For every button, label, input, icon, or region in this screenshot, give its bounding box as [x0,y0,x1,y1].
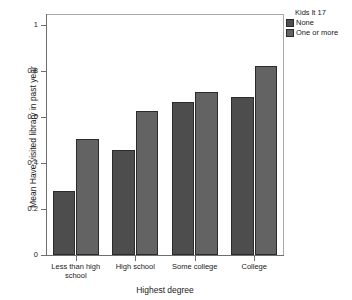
legend-item: None [286,18,352,27]
x-tick-mark [254,256,255,261]
x-axis-title: Highest degree [46,285,284,295]
x-axis-line [46,255,284,256]
y-tick-mark [41,163,46,164]
legend: Kids lt 17 NoneOne or more [286,8,352,38]
x-tick-label: High school [106,263,166,272]
bar [255,66,278,255]
bar [53,191,76,255]
y-tick-label: 0.6 [8,113,38,121]
bar [172,102,195,255]
y-tick-label: 1 [8,21,38,29]
y-tick-mark [41,71,46,72]
x-tick-label: College [225,263,285,272]
bar-chart-figure: Mean Have visited library in past year 0… [0,0,352,300]
y-tick-label: 0.2 [8,205,38,213]
y-axis-line [46,14,47,256]
bar [231,97,254,255]
legend-swatch-icon [286,29,294,37]
legend-item: One or more [286,28,352,37]
y-tick-mark [41,25,46,26]
legend-item-label: One or more [296,28,338,37]
legend-item-label: None [296,18,314,27]
x-tick-mark [135,256,136,261]
bar [136,111,159,255]
bar [112,150,135,255]
x-tick-label: Less than high school [46,263,106,280]
bar [76,139,99,255]
bar [195,92,218,255]
x-tick-mark [195,256,196,261]
legend-entries: NoneOne or more [286,18,352,37]
y-tick-mark [41,255,46,256]
y-tick-mark [41,209,46,210]
x-tick-mark [76,256,77,261]
y-tick-label: 0 [8,251,38,259]
y-tick-label: 0.8 [8,67,38,75]
legend-swatch-icon [286,19,294,27]
y-tick-label: 0.4 [8,159,38,167]
legend-title: Kids lt 17 [295,8,352,17]
x-tick-label: Some college [165,263,225,272]
y-tick-mark [41,117,46,118]
